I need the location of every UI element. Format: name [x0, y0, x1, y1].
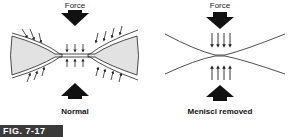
force-arrow-up-icon: [206, 85, 234, 97]
force-arrow-down-icon: [206, 17, 234, 29]
normal-panel: [11, 10, 139, 99]
lower-bone-curve: [165, 56, 285, 74]
upper-bone-curve: [165, 34, 285, 55]
figure-label: FIG. 7-17: [0, 125, 63, 137]
caption-normal: Normal: [45, 107, 105, 116]
menisci-removed-panel: [165, 12, 285, 101]
caption-menisci-removed: Menisci removed: [180, 107, 260, 116]
force-arrow-up-icon: [61, 83, 89, 96]
meniscus-right-shape: [88, 36, 139, 75]
diagram-canvas: [0, 0, 294, 137]
force-arrow-down-icon: [61, 13, 89, 26]
